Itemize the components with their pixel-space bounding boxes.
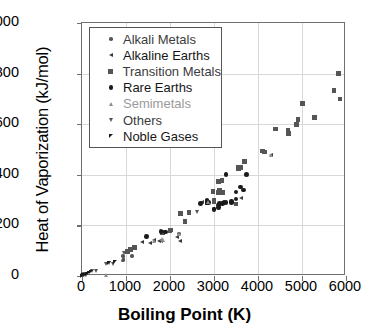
data-point	[177, 232, 181, 236]
marker-square-icon	[234, 202, 239, 207]
data-point	[94, 269, 98, 273]
y-tick-label: 0	[0, 266, 19, 282]
gridline-vertical	[258, 23, 259, 274]
data-point	[244, 172, 249, 177]
data-point	[163, 230, 168, 235]
marker-square-icon	[312, 115, 317, 120]
data-point	[212, 207, 217, 212]
data-point	[183, 219, 188, 224]
legend-item-noble-gases[interactable]: Noble Gases	[90, 128, 221, 144]
marker-circle-icon	[198, 201, 203, 206]
marker-circle-icon	[229, 199, 234, 204]
marker-circle-icon	[234, 190, 239, 195]
y-axis-tick	[77, 74, 82, 75]
data-point	[206, 200, 210, 204]
legend-item-others[interactable]: Others	[90, 112, 221, 128]
legend-item-transition-metals[interactable]: Transition Metals	[90, 63, 221, 79]
data-point	[195, 210, 199, 214]
marker-circle-icon	[212, 207, 217, 212]
marker-square-icon	[286, 131, 291, 136]
marker-square-icon	[183, 219, 188, 224]
marker-square-icon	[332, 88, 337, 93]
data-point	[178, 211, 183, 216]
data-point	[269, 153, 273, 157]
marker-circle-icon	[216, 205, 221, 210]
data-point	[152, 239, 156, 243]
data-point	[229, 199, 234, 204]
y-axis-tick	[77, 225, 82, 226]
data-point	[336, 71, 341, 76]
data-point	[198, 201, 203, 206]
marker-square-icon	[294, 122, 299, 127]
data-point	[220, 190, 225, 195]
legend-item-alkaline-earths[interactable]: Alkaline Earths	[90, 47, 221, 63]
data-point	[286, 131, 291, 136]
y-axis-tick	[77, 23, 82, 24]
marker-circle-icon	[222, 200, 227, 205]
marker-square-icon	[125, 249, 130, 254]
data-point	[211, 189, 216, 194]
data-point	[169, 228, 173, 232]
legend-item-rare-earths[interactable]: Rare Earths	[90, 80, 221, 96]
marker-square-icon	[300, 101, 305, 106]
marker-triangle-nw-icon	[109, 134, 113, 138]
marker-triangle-down-icon	[94, 269, 98, 273]
data-point	[296, 117, 301, 122]
data-point	[238, 185, 243, 190]
marker-square-icon	[220, 190, 225, 195]
x-axis-tick	[302, 276, 303, 281]
data-point	[338, 97, 343, 102]
marker-triangle-up-icon	[152, 239, 156, 243]
marker-square-icon	[262, 150, 267, 155]
legend-marker	[101, 37, 121, 41]
data-point	[234, 197, 239, 202]
data-point	[222, 200, 227, 205]
marker-square-icon	[296, 117, 301, 122]
marker-triangle-down-icon	[109, 118, 113, 122]
data-point	[224, 172, 229, 177]
marker-square-icon	[220, 178, 225, 183]
legend-marker	[101, 134, 121, 138]
data-point	[238, 165, 243, 170]
data-point	[132, 246, 136, 250]
data-point	[220, 178, 225, 183]
data-point	[122, 251, 126, 255]
y-axis-title: Heat of Vaporization (kJ/mol)	[33, 20, 52, 280]
marker-triangle-left-icon	[178, 239, 182, 243]
legend-marker	[101, 69, 121, 74]
x-axis-tick	[126, 276, 127, 281]
x-axis-tick	[346, 276, 347, 281]
data-point	[121, 259, 125, 263]
y-tick-label: 1000	[0, 13, 19, 29]
y-axis-tick	[77, 175, 82, 176]
marker-triangle-down-icon	[169, 228, 173, 232]
y-tick-label: 800	[0, 64, 19, 80]
data-point	[104, 273, 108, 277]
marker-square-icon	[338, 97, 343, 102]
marker-triangle-nw-icon	[89, 270, 93, 274]
marker-triangle-up-icon	[104, 273, 108, 277]
data-point	[273, 127, 278, 132]
marker-triangle-up-icon	[206, 200, 210, 204]
legend-item-semimetals[interactable]: Semimetals	[90, 96, 221, 112]
y-tick-label: 200	[0, 215, 19, 231]
x-axis-tick	[214, 276, 215, 281]
marker-circle-icon	[238, 185, 243, 190]
data-point	[312, 115, 317, 120]
marker-square-icon	[242, 159, 247, 164]
marker-circle-icon	[234, 197, 239, 202]
legend-label: Others	[123, 113, 162, 128]
chart-legend: Alkali MetalsAlkaline EarthsTransition M…	[89, 27, 222, 148]
legend-label: Noble Gases	[123, 129, 198, 144]
data-point	[113, 260, 117, 264]
marker-triangle-left-icon	[140, 240, 144, 244]
data-point	[125, 249, 130, 254]
legend-item-alkali-metals[interactable]: Alkali Metals	[90, 31, 221, 47]
data-point	[216, 205, 221, 210]
marker-circle-icon	[144, 234, 149, 239]
marker-circle-small-icon	[109, 37, 113, 41]
data-point	[262, 150, 267, 155]
y-tick-label: 400	[0, 165, 19, 181]
data-point	[130, 254, 134, 258]
marker-triangle-up-icon	[109, 102, 113, 106]
